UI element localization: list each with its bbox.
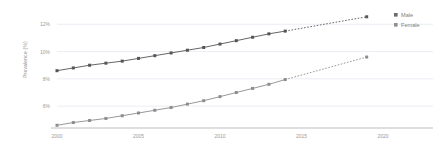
y-tick-labels-group: 6%8%10%12%	[40, 21, 51, 109]
data-point-marker	[267, 83, 270, 86]
data-point-marker	[137, 111, 140, 114]
data-point-marker	[104, 62, 107, 65]
data-point-marker	[153, 109, 156, 112]
x-tick-label: 2010	[214, 133, 225, 139]
data-point-marker	[365, 15, 368, 18]
data-point-marker	[267, 32, 270, 35]
data-point-marker	[284, 30, 287, 33]
x-tick-label: 2020	[377, 133, 388, 139]
y-tick-label: 8%	[43, 76, 51, 82]
series-layer	[56, 15, 369, 126]
prevalence-line-chart: Prevalence (%) 6%8%10%12% 20002005201020…	[0, 0, 442, 153]
data-point-marker	[104, 117, 107, 120]
data-point-marker	[137, 57, 140, 60]
data-point-marker	[121, 114, 124, 117]
data-point-marker	[56, 124, 59, 127]
data-point-marker	[153, 54, 156, 57]
data-point-marker	[121, 60, 124, 63]
data-point-marker	[72, 66, 75, 69]
series-female	[56, 56, 369, 127]
y-tick-label: 10%	[40, 49, 51, 55]
series-line-observed	[57, 31, 285, 71]
data-point-marker	[170, 106, 173, 109]
data-point-marker	[202, 46, 205, 49]
data-point-marker	[170, 51, 173, 54]
data-point-marker	[219, 95, 222, 98]
y-axis-title-wrapper: Prevalence (%)	[22, 41, 28, 78]
x-tick-label: 2000	[51, 133, 62, 139]
y-axis-title: Prevalence (%)	[22, 41, 28, 78]
data-point-marker	[219, 43, 222, 46]
legend-label: Male	[401, 12, 413, 18]
series-line-projected	[285, 57, 367, 80]
legend-swatch	[394, 23, 398, 27]
y-tick-label: 12%	[40, 21, 51, 27]
data-point-marker	[365, 56, 368, 59]
data-point-marker	[186, 49, 189, 52]
data-point-marker	[72, 121, 75, 124]
data-point-marker	[251, 36, 254, 39]
data-point-marker	[235, 91, 238, 94]
data-point-marker	[56, 69, 59, 72]
y-tick-label: 6%	[43, 103, 51, 109]
data-point-marker	[88, 64, 91, 67]
gridlines-group	[57, 24, 433, 106]
legend-label: Female	[401, 22, 420, 28]
x-tick-label: 2015	[296, 133, 307, 139]
data-point-marker	[251, 87, 254, 90]
legend-group: MaleFemale	[394, 12, 420, 28]
data-point-marker	[202, 99, 205, 102]
data-point-marker	[186, 103, 189, 106]
data-point-marker	[284, 78, 287, 81]
data-point-marker	[88, 119, 91, 122]
series-line-observed	[57, 80, 285, 126]
x-tick-label: 2005	[133, 133, 144, 139]
x-tick-labels-group: 20002005201020152020	[51, 133, 388, 139]
chart-svg: 6%8%10%12% 20002005201020152020 MaleFema…	[0, 0, 442, 153]
data-point-marker	[235, 39, 238, 42]
series-male	[56, 15, 369, 72]
legend-swatch	[394, 13, 398, 17]
